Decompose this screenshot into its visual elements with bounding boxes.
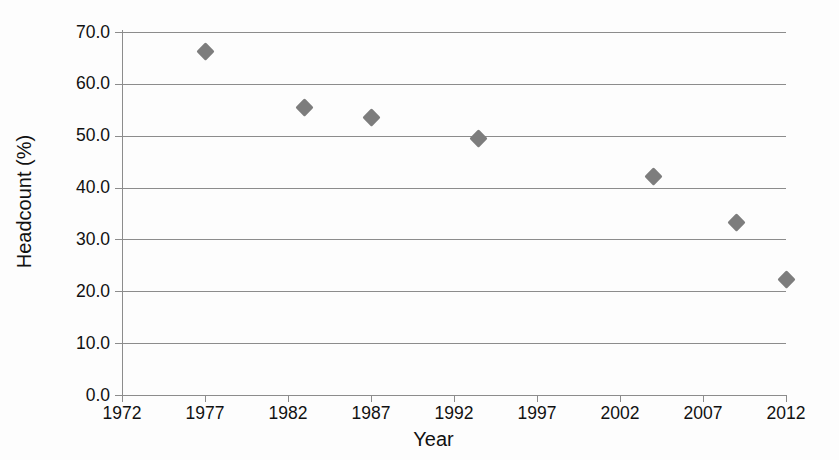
y-axis-line	[122, 30, 123, 397]
y-tick-20.0	[115, 291, 122, 292]
x-tick-1987	[371, 395, 372, 402]
x-axis-title-text: Year	[413, 428, 453, 451]
y-tick-60.0	[115, 84, 122, 85]
x-tick-label-1972: 1972	[103, 404, 142, 422]
y-tick-30.0	[115, 239, 122, 240]
x-axis-ticks	[122, 395, 786, 403]
y-tick-10.0	[115, 343, 122, 344]
scatter-chart: 0.010.020.030.040.050.060.070.0 19721977…	[0, 0, 839, 460]
x-tick-1997	[537, 395, 538, 402]
x-tick-label-2007: 2007	[684, 404, 723, 422]
gridline-y-70.0	[122, 32, 786, 33]
gridline-y-40.0	[122, 188, 786, 189]
x-tick-1982	[288, 395, 289, 402]
x-tick-label-1977: 1977	[186, 404, 225, 422]
x-tick-1972	[122, 395, 123, 402]
x-axis-title: Year	[0, 428, 839, 451]
x-tick-2007	[703, 395, 704, 402]
x-tick-1992	[454, 395, 455, 402]
y-tick-label-0.0: 0.0	[86, 387, 110, 405]
y-axis-ticks	[115, 32, 122, 395]
y-tick-0.0	[115, 395, 122, 396]
x-tick-1977	[205, 395, 206, 402]
y-tick-40.0	[115, 188, 122, 189]
x-tick-2012	[786, 395, 787, 402]
y-tick-label-50.0: 50.0	[76, 127, 110, 145]
y-tick-70.0	[115, 32, 122, 33]
gridline-y-10.0	[122, 343, 786, 344]
gridline-y-20.0	[122, 291, 786, 292]
x-tick-label-1992: 1992	[435, 404, 474, 422]
gridline-y-30.0	[122, 239, 786, 240]
y-tick-label-20.0: 20.0	[76, 283, 110, 301]
x-tick-label-1997: 1997	[518, 404, 557, 422]
gridline-y-60.0	[122, 84, 786, 85]
y-axis-title: Headcount (%)	[13, 102, 36, 302]
gridline-y-50.0	[122, 136, 786, 137]
y-tick-label-30.0: 30.0	[76, 231, 110, 249]
plot-area	[122, 32, 786, 395]
x-tick-label-2012: 2012	[767, 404, 806, 422]
y-tick-label-40.0: 40.0	[76, 179, 110, 197]
y-tick-label-10.0: 10.0	[76, 335, 110, 353]
y-tick-50.0	[115, 136, 122, 137]
y-tick-label-60.0: 60.0	[76, 75, 110, 93]
x-tick-label-1982: 1982	[269, 404, 308, 422]
x-tick-label-2002: 2002	[601, 404, 640, 422]
x-tick-2002	[620, 395, 621, 402]
x-axis-tick-labels: 197219771982198719921997200220072012	[122, 404, 786, 428]
y-tick-label-70.0: 70.0	[76, 24, 110, 42]
x-tick-label-1987: 1987	[352, 404, 391, 422]
